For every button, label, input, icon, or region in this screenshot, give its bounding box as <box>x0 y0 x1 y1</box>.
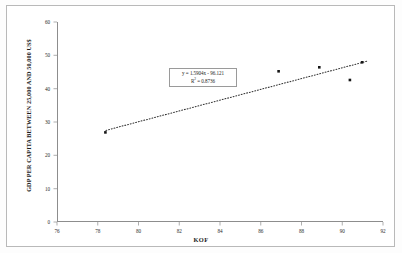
y-tick-label: 20 <box>30 152 50 158</box>
data-point <box>277 70 280 73</box>
x-tick-label: 88 <box>292 228 312 234</box>
x-tick-label: 92 <box>373 228 393 234</box>
x-tick-label: 82 <box>169 228 189 234</box>
plot-graphics <box>0 0 402 253</box>
data-point <box>318 66 321 69</box>
y-tick-label: 10 <box>30 186 50 192</box>
x-tick-label: 76 <box>47 228 67 234</box>
y-tick-label: 40 <box>30 86 50 92</box>
r2-value: = 0.8736 <box>196 77 215 83</box>
data-point <box>361 61 364 64</box>
x-tick-label: 86 <box>251 228 271 234</box>
x-tick-label: 90 <box>332 228 352 234</box>
y-tick-label: 0 <box>30 219 50 225</box>
y-tick-label: 50 <box>30 52 50 58</box>
x-tick-label: 84 <box>210 228 230 234</box>
x-axis-title: KOF <box>0 236 402 243</box>
y-axis-title: GDP PER CAPITA BETWEEN 25,000 AND 50,000… <box>25 21 32 211</box>
x-axis-ticks <box>57 222 383 226</box>
chart-figure: 0 10 20 30 40 50 60 76 78 80 82 84 86 88… <box>0 0 402 253</box>
trendline-equation-box: y = 1.5904x - 96.121 R2 = 0.8736 <box>169 68 237 87</box>
x-tick-label: 78 <box>88 228 108 234</box>
y-tick-label: 60 <box>30 19 50 25</box>
trendline-r2: R2 = 0.8736 <box>191 77 215 85</box>
data-point <box>349 79 352 82</box>
data-point <box>104 131 107 134</box>
y-tick-label: 30 <box>30 119 50 125</box>
y-axis-ticks <box>54 22 58 222</box>
x-tick-label: 80 <box>129 228 149 234</box>
